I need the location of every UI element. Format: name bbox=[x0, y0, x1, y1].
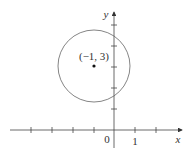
x-axis-label: x bbox=[175, 133, 181, 145]
x-axis bbox=[10, 127, 182, 133]
center-point bbox=[92, 64, 95, 67]
x-tick-label-1: 1 bbox=[132, 135, 138, 147]
center-label: (−1, 3) bbox=[79, 50, 109, 63]
origin-label: 0 bbox=[104, 133, 110, 145]
circle-diagram: (−1, 3) x y 0 1 bbox=[0, 0, 194, 160]
y-axis bbox=[111, 12, 117, 148]
y-axis-label: y bbox=[103, 8, 109, 20]
